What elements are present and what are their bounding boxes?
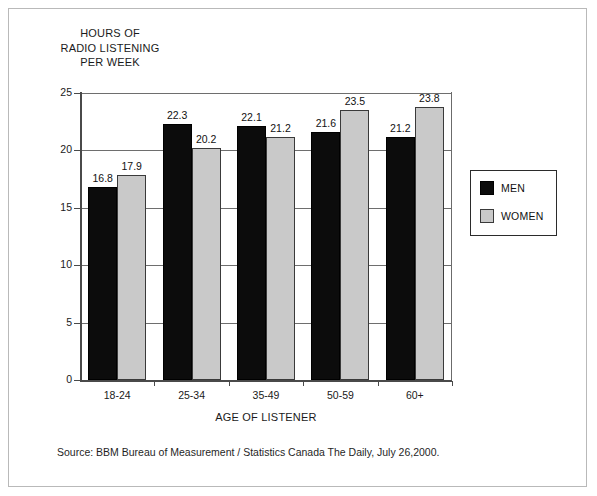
x-tick-label-25-34: 25-34 <box>154 389 228 401</box>
bar-women-60+ <box>415 107 444 380</box>
legend-swatch-men-icon <box>480 181 494 195</box>
y-axis-title-line-3: PER WEEK <box>30 55 190 70</box>
y-axis-tick-labels: 0510152025 <box>40 93 72 380</box>
bar-value-label-women-35-49: 21.2 <box>261 122 300 134</box>
legend: MEN WOMEN <box>470 170 557 236</box>
x-tick-50-59 <box>378 381 379 386</box>
y-axis-title: HOURS OF RADIO LISTENING PER WEEK <box>30 26 190 70</box>
y-tick-label-20: 20 <box>44 143 72 155</box>
bar-value-label-men-25-34: 22.3 <box>158 109 197 121</box>
bars-layer: 16.817.922.320.222.121.221.623.521.223.8 <box>80 93 452 380</box>
y-tick-label-10: 10 <box>44 258 72 270</box>
bar-men-18-24 <box>88 187 117 380</box>
x-tick-18-24 <box>154 381 155 386</box>
chart-page: HOURS OF RADIO LISTENING PER WEEK 051015… <box>0 0 597 496</box>
legend-swatch-women-icon <box>480 209 494 223</box>
x-tick-label-35-49: 35-49 <box>229 389 303 401</box>
x-tick-60+ <box>452 381 453 386</box>
bar-value-label-women-18-24: 17.9 <box>112 160 151 172</box>
bar-men-25-34 <box>163 124 192 380</box>
bar-value-label-women-25-34: 20.2 <box>187 133 226 145</box>
x-tick-label-50-59: 50-59 <box>303 389 377 401</box>
legend-item-women: WOMEN <box>480 209 543 223</box>
bar-women-50-59 <box>340 110 369 380</box>
bar-men-50-59 <box>311 132 340 380</box>
y-axis-title-line-1: HOURS OF <box>30 26 190 41</box>
y-tick-label-25: 25 <box>44 86 72 98</box>
legend-label-men: MEN <box>501 182 525 194</box>
bar-women-35-49 <box>266 137 295 380</box>
x-axis-line <box>80 380 452 382</box>
bar-women-18-24 <box>117 175 146 380</box>
y-tick-label-0: 0 <box>44 373 72 385</box>
bar-women-25-34 <box>192 148 221 380</box>
x-tick-35-49 <box>303 381 304 386</box>
legend-label-women: WOMEN <box>501 210 543 222</box>
x-tick-label-18-24: 18-24 <box>80 389 154 401</box>
plot-area: 0510152025 16.817.922.320.222.121.221.62… <box>80 93 452 380</box>
x-tick-label-60+: 60+ <box>378 389 452 401</box>
source-note: Source: BBM Bureau of Measurement / Stat… <box>57 446 439 458</box>
y-tick-label-5: 5 <box>44 316 72 328</box>
bar-men-60+ <box>386 137 415 380</box>
x-tick-25-34 <box>229 381 230 386</box>
bar-value-label-women-60+: 23.8 <box>410 92 449 104</box>
bar-men-35-49 <box>237 126 266 380</box>
x-axis-title: AGE OF LISTENER <box>80 411 452 423</box>
bar-value-label-women-50-59: 23.5 <box>335 95 374 107</box>
y-tick-label-15: 15 <box>44 201 72 213</box>
y-axis-title-line-2: RADIO LISTENING <box>30 41 190 56</box>
legend-item-men: MEN <box>480 181 525 195</box>
